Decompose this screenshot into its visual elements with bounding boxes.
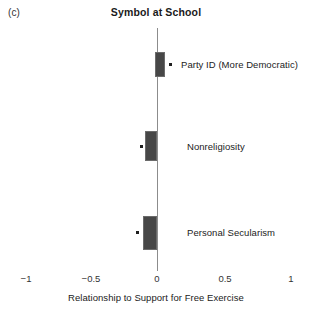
x-axis-tick-label: 0.5 xyxy=(218,273,231,284)
confidence-interval-box xyxy=(145,131,157,161)
series-label: Nonreligiosity xyxy=(187,141,245,152)
series-label: Personal Secularism xyxy=(187,227,275,238)
confidence-interval-box xyxy=(155,52,165,77)
coefficient-plot-figure: (c) Symbol at School Party ID (More Demo… xyxy=(0,0,312,326)
x-axis-tick-label: −1 xyxy=(21,273,32,284)
x-axis-tick-labels: −1−0.500.51 xyxy=(0,271,312,293)
x-axis-tick-label: −0.5 xyxy=(82,273,101,284)
series-label: Party ID (More Democratic) xyxy=(181,59,298,70)
x-axis-tick-label: 1 xyxy=(288,273,293,284)
plot-area: Party ID (More Democratic)Nonreligiosity… xyxy=(0,0,312,271)
point-estimate-marker xyxy=(136,231,139,234)
x-axis-tick-label: 0 xyxy=(154,273,159,284)
confidence-interval-box xyxy=(143,216,157,250)
point-estimate-marker xyxy=(169,63,172,66)
x-axis-title: Relationship to Support for Free Exercis… xyxy=(0,292,312,303)
point-estimate-marker xyxy=(140,145,143,148)
